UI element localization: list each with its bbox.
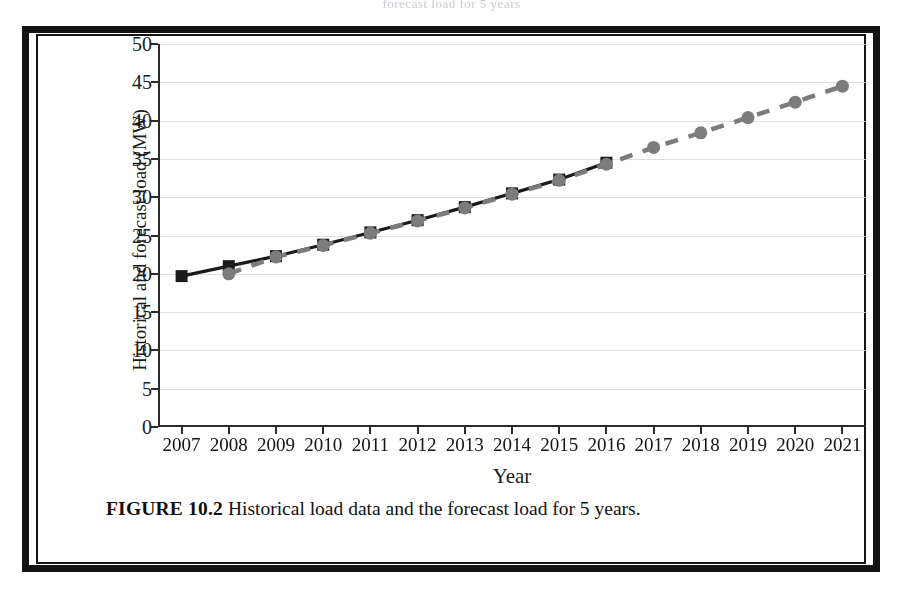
x-tick-label: 2020: [776, 434, 814, 456]
x-tick-label: 2011: [352, 434, 389, 456]
x-tick: [794, 427, 796, 434]
x-tick: [841, 427, 843, 434]
y-tick: [151, 349, 158, 351]
data-point-marker: [742, 111, 755, 124]
x-axis-title: Year: [493, 464, 532, 489]
x-tick: [369, 427, 371, 434]
y-axis-title: Historical and forecast load (MW): [129, 109, 151, 371]
y-tick: [151, 158, 158, 160]
y-tick: [151, 426, 158, 428]
data-point-marker: [458, 201, 471, 214]
x-tick: [653, 427, 655, 434]
x-tick-label: 2008: [210, 434, 248, 456]
data-point-marker: [317, 239, 330, 252]
x-tick: [322, 427, 324, 434]
x-tick-label: 2007: [163, 434, 201, 456]
x-tick-label: 2018: [682, 434, 720, 456]
data-point-marker: [694, 126, 707, 139]
data-point-marker: [270, 250, 283, 263]
figure-caption: FIGURE 10.2 Historical load data and the…: [106, 496, 846, 521]
data-point-marker: [789, 96, 802, 109]
x-tick-label: 2021: [823, 434, 861, 456]
page-bleed-text: forecast load for 5 years: [0, 0, 903, 12]
x-tick-label: 2010: [304, 434, 342, 456]
x-tick: [228, 427, 230, 434]
y-tick: [151, 81, 158, 83]
y-tick: [151, 388, 158, 390]
y-tick: [151, 311, 158, 313]
x-tick-label: 2012: [399, 434, 437, 456]
series-line: [182, 163, 607, 276]
x-tick: [511, 427, 513, 434]
y-tick: [151, 235, 158, 237]
y-tick-label: 5: [106, 377, 152, 400]
figure-caption-text: Historical load data and the forecast lo…: [228, 498, 641, 519]
figure-caption-label: FIGURE 10.2: [106, 498, 223, 519]
y-tick-label: 45: [106, 71, 152, 94]
x-tick: [747, 427, 749, 434]
x-tick: [181, 427, 183, 434]
x-tick: [605, 427, 607, 434]
y-tick-label: 0: [106, 416, 152, 439]
x-tick-label: 2019: [729, 434, 767, 456]
data-point-marker: [364, 227, 377, 240]
chart-plot-area: 05101520253035404550 2007200820092010201…: [158, 44, 866, 427]
data-point-marker: [647, 141, 660, 154]
x-tick-label: 2015: [540, 434, 578, 456]
x-tick: [558, 427, 560, 434]
y-tick: [151, 43, 158, 45]
x-tick: [464, 427, 466, 434]
data-point-marker: [222, 267, 235, 280]
data-point-marker: [506, 188, 519, 201]
y-tick: [151, 273, 158, 275]
chart-series-svg: [158, 44, 866, 427]
y-tick-label: 50: [106, 33, 152, 56]
data-point-marker: [411, 214, 424, 227]
y-tick: [151, 120, 158, 122]
data-point-marker: [836, 80, 849, 93]
data-point-marker: [600, 158, 613, 171]
x-tick: [275, 427, 277, 434]
x-tick-label: 2013: [446, 434, 484, 456]
figure-10-2: 05101520253035404550 2007200820092010201…: [36, 34, 866, 564]
chart-canvas: [158, 44, 866, 427]
x-tick: [417, 427, 419, 434]
x-tick-label: 2014: [493, 434, 531, 456]
y-tick: [151, 196, 158, 198]
data-point-marker: [176, 270, 188, 282]
data-point-marker: [553, 174, 566, 187]
x-tick-label: 2017: [635, 434, 673, 456]
x-tick-label: 2016: [587, 434, 625, 456]
x-tick-label: 2009: [257, 434, 295, 456]
x-tick: [700, 427, 702, 434]
